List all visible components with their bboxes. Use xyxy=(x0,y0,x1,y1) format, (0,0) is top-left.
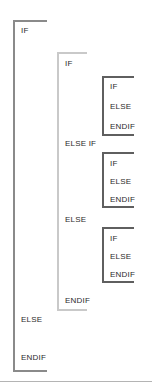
keyword-outer-if: IF xyxy=(21,26,29,35)
diagram-canvas: IF ELSE ENDIF IF ELSE IF ELSE ENDIF IF E… xyxy=(0,0,152,388)
keyword-outer-else: ELSE xyxy=(21,315,42,324)
keyword-outer-endif: ENDIF xyxy=(21,353,46,362)
keyword-middle-else-if: ELSE IF xyxy=(65,139,96,148)
keyword-inner3-endif: ENDIF xyxy=(110,270,135,279)
keyword-inner1-if: IF xyxy=(110,82,118,91)
keyword-inner3-else: ELSE xyxy=(110,252,131,261)
keyword-inner1-else: ELSE xyxy=(110,102,131,111)
keyword-middle-else: ELSE xyxy=(65,215,86,224)
keyword-middle-if: IF xyxy=(65,59,73,68)
keyword-middle-endif: ENDIF xyxy=(65,296,90,305)
bracket-middle-if-block xyxy=(57,52,87,311)
keyword-inner2-else: ELSE xyxy=(110,177,131,186)
footer-divider xyxy=(0,381,152,382)
keyword-inner3-if: IF xyxy=(110,234,118,243)
keyword-inner2-if: IF xyxy=(110,159,118,168)
keyword-inner2-endif: ENDIF xyxy=(110,195,135,204)
keyword-inner1-endif: ENDIF xyxy=(110,122,135,131)
